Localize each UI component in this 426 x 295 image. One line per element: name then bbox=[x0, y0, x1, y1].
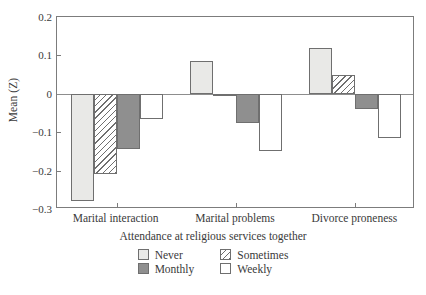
y-tick-label: 0.1 bbox=[38, 49, 52, 61]
legend-title: Attendance at religious services togethe… bbox=[0, 230, 426, 242]
bar-sometimes-1 bbox=[213, 94, 236, 96]
x-category-label: Marital problems bbox=[195, 212, 275, 224]
bar-sometimes-2 bbox=[332, 75, 355, 94]
bar-never-0 bbox=[71, 94, 94, 202]
legend-items: NeverSometimesMonthlyWeekly bbox=[138, 249, 289, 275]
y-axis-label: Mean (Z) bbox=[7, 55, 19, 145]
y-tick-label: 0 bbox=[47, 88, 53, 100]
bar-weekly-0 bbox=[140, 94, 163, 119]
bar-monthly-2 bbox=[355, 94, 378, 109]
bar-weekly-2 bbox=[378, 94, 401, 138]
legend-item-label: Monthly bbox=[155, 263, 195, 275]
x-tick-mark bbox=[355, 203, 356, 207]
y-tick-label: −0.3 bbox=[32, 203, 52, 215]
bar-never-2 bbox=[309, 48, 332, 94]
bar-chart-figure: Mean (Z) 0.20.10−0.1−0.2−0.3 Marital int… bbox=[0, 0, 426, 295]
legend-swatch-never-icon bbox=[138, 249, 149, 260]
y-tick-mark bbox=[57, 55, 61, 56]
legend-swatch-monthly-icon bbox=[138, 263, 149, 274]
y-tick-mark bbox=[57, 132, 61, 133]
legend-item-label: Weekly bbox=[237, 263, 272, 275]
legend-item-label: Sometimes bbox=[237, 249, 288, 261]
bar-monthly-0 bbox=[117, 94, 140, 150]
bar-monthly-1 bbox=[236, 94, 259, 123]
y-tick-label: 0.2 bbox=[38, 11, 52, 23]
x-tick-mark bbox=[236, 203, 237, 207]
bar-never-1 bbox=[190, 61, 213, 94]
legend: Attendance at religious services togethe… bbox=[0, 230, 426, 275]
legend-item-sometimes[interactable]: Sometimes bbox=[220, 249, 288, 261]
bar-weekly-1 bbox=[259, 94, 282, 152]
x-category-label: Divorce proneness bbox=[311, 212, 397, 224]
legend-item-label: Never bbox=[155, 249, 183, 261]
plot-area: 0.20.10−0.1−0.2−0.3 bbox=[56, 16, 414, 208]
bar-sometimes-0 bbox=[94, 94, 117, 175]
legend-swatch-sometimes-icon bbox=[220, 249, 231, 260]
legend-swatch-weekly-icon bbox=[220, 263, 231, 274]
x-tick-mark bbox=[117, 203, 118, 207]
legend-item-never[interactable]: Never bbox=[138, 249, 195, 261]
y-tick-label: −0.2 bbox=[32, 165, 52, 177]
y-tick-label: −0.1 bbox=[32, 126, 52, 138]
legend-item-weekly[interactable]: Weekly bbox=[220, 263, 288, 275]
y-tick-mark bbox=[57, 171, 61, 172]
x-category-label: Marital interaction bbox=[73, 212, 159, 224]
legend-item-monthly[interactable]: Monthly bbox=[138, 263, 195, 275]
